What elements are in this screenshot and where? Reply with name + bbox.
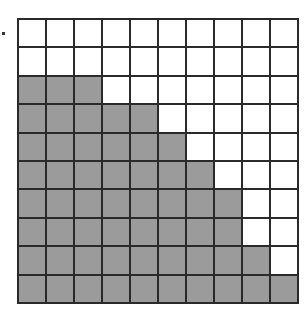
empty-cell — [271, 48, 297, 74]
shaded-cell — [75, 77, 101, 103]
shaded-cell — [75, 219, 101, 245]
empty-cell — [243, 48, 269, 74]
shaded-cell — [159, 162, 185, 188]
shaded-cell — [103, 134, 129, 160]
empty-cell — [103, 48, 129, 74]
empty-cell — [243, 190, 269, 216]
shaded-cell — [19, 190, 45, 216]
shaded-cell — [75, 105, 101, 131]
empty-cell — [271, 190, 297, 216]
shaded-cell — [47, 105, 73, 131]
shaded-cell — [131, 190, 157, 216]
shaded-cell — [75, 190, 101, 216]
empty-cell — [159, 105, 185, 131]
empty-cell — [271, 162, 297, 188]
empty-cell — [243, 219, 269, 245]
shaded-cell — [187, 162, 213, 188]
shaded-cell — [131, 219, 157, 245]
empty-cell — [47, 20, 73, 46]
shaded-cell — [215, 219, 241, 245]
shaded-cell — [159, 219, 185, 245]
empty-cell — [271, 219, 297, 245]
shaded-cell — [47, 247, 73, 273]
shaded-cell — [159, 190, 185, 216]
shaded-cell — [103, 190, 129, 216]
empty-cell — [215, 77, 241, 103]
shaded-cell — [131, 105, 157, 131]
empty-cell — [131, 77, 157, 103]
empty-cell — [131, 48, 157, 74]
shaded-cell — [19, 247, 45, 273]
shaded-cell — [187, 219, 213, 245]
shaded-cell — [159, 276, 185, 302]
empty-cell — [215, 105, 241, 131]
empty-cell — [215, 20, 241, 46]
empty-cell — [215, 162, 241, 188]
shaded-cell — [215, 247, 241, 273]
empty-cell — [243, 20, 269, 46]
stray-mark — [2, 32, 5, 35]
shaded-cell — [215, 276, 241, 302]
shaded-cell — [75, 162, 101, 188]
empty-cell — [47, 48, 73, 74]
shaded-cell — [75, 276, 101, 302]
shaded-cell — [19, 162, 45, 188]
shaded-cell — [19, 134, 45, 160]
empty-cell — [159, 77, 185, 103]
shaded-cell — [187, 276, 213, 302]
empty-cell — [243, 77, 269, 103]
shaded-cell — [47, 134, 73, 160]
shaded-cell — [159, 134, 185, 160]
shaded-cell — [103, 219, 129, 245]
shaded-cell — [47, 276, 73, 302]
shaded-cell — [243, 276, 269, 302]
shaded-cell — [103, 247, 129, 273]
shaded-cell — [103, 105, 129, 131]
empty-cell — [187, 20, 213, 46]
shaded-cell — [215, 190, 241, 216]
shaded-cell — [19, 105, 45, 131]
empty-cell — [187, 134, 213, 160]
shaded-cell — [75, 247, 101, 273]
empty-cell — [159, 20, 185, 46]
shaded-cell — [243, 247, 269, 273]
empty-cell — [75, 48, 101, 74]
shaded-cell — [47, 162, 73, 188]
shaded-cell — [187, 190, 213, 216]
shaded-cell — [47, 219, 73, 245]
shaded-cell — [159, 247, 185, 273]
empty-cell — [215, 134, 241, 160]
shaded-cell — [131, 276, 157, 302]
shaded-cell — [271, 276, 297, 302]
empty-cell — [187, 105, 213, 131]
empty-cell — [271, 247, 297, 273]
shaded-cell — [131, 134, 157, 160]
empty-cell — [131, 20, 157, 46]
shaded-cell — [131, 162, 157, 188]
empty-cell — [103, 20, 129, 46]
empty-cell — [243, 134, 269, 160]
empty-cell — [243, 162, 269, 188]
empty-cell — [271, 77, 297, 103]
empty-cell — [215, 48, 241, 74]
empty-cell — [19, 48, 45, 74]
shaded-cell — [131, 247, 157, 273]
empty-cell — [271, 134, 297, 160]
empty-cell — [187, 48, 213, 74]
empty-cell — [159, 48, 185, 74]
shaded-cell — [103, 162, 129, 188]
shaded-cell — [75, 134, 101, 160]
shaded-cell — [47, 190, 73, 216]
empty-cell — [75, 20, 101, 46]
shaded-cell — [19, 276, 45, 302]
empty-cell — [187, 77, 213, 103]
empty-cell — [271, 20, 297, 46]
shaded-cell — [19, 219, 45, 245]
empty-cell — [243, 105, 269, 131]
hundred-grid — [17, 18, 299, 304]
empty-cell — [271, 105, 297, 131]
shaded-cell — [103, 276, 129, 302]
shaded-cell — [187, 247, 213, 273]
empty-cell — [19, 20, 45, 46]
empty-cell — [103, 77, 129, 103]
